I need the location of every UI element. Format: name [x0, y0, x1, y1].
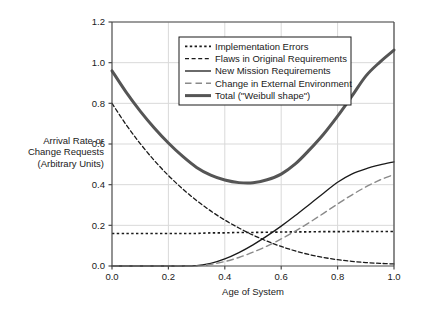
x-tick-label: 0.6: [275, 271, 288, 282]
y-axis-title-line: Change Requests: [28, 146, 104, 157]
y-axis-title-line: (Arbitrary Units): [37, 158, 104, 169]
legend-label-5: Total ("Weibull shape"): [215, 90, 310, 101]
x-tick-label: 1.0: [387, 271, 400, 282]
y-tick-label: 0.2: [92, 220, 105, 231]
legend-label-3: New Mission Requirements: [215, 65, 331, 76]
chart-figure: 0.00.20.40.60.81.0 0.00.20.40.60.81.01.2…: [0, 0, 425, 312]
legend-label-1: Implementation Errors: [215, 41, 309, 52]
y-axis-title-line: Arrival Rate or: [43, 135, 104, 146]
x-tick-label: 0.2: [162, 271, 175, 282]
y-tick-label: 1.0: [92, 57, 105, 68]
x-axis-title-text: Age of System: [222, 286, 284, 297]
y-tick-label: 1.2: [92, 16, 105, 27]
y-tick-label: 0.8: [92, 98, 105, 109]
y-tick-label: 0.0: [92, 260, 105, 271]
x-tick-label: 0.4: [218, 271, 231, 282]
x-axis-title: Age of System: [222, 286, 284, 297]
x-tick-label: 0.8: [331, 271, 344, 282]
y-tick-label: 0.4: [92, 179, 105, 190]
legend-label-4: Change in External Environment: [215, 78, 352, 89]
x-tick-label: 0.0: [105, 271, 118, 282]
legend-label-2: Flaws in Original Requirements: [215, 53, 347, 64]
chart-legend: Implementation ErrorsFlaws in Original R…: [179, 37, 352, 105]
